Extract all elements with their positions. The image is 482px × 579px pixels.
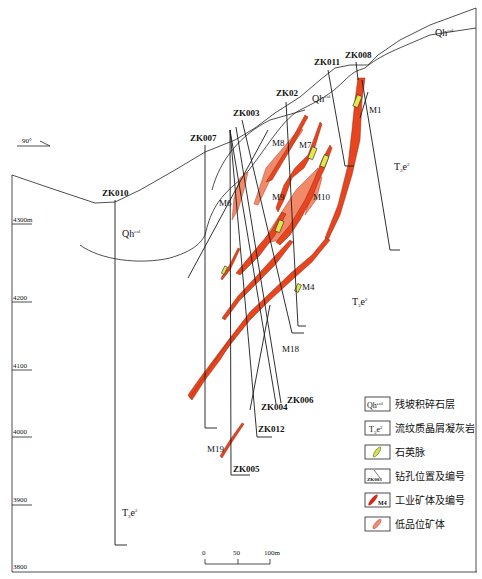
legend-item-t3e2: T3e2 流纹质晶屑凝灰岩 xyxy=(365,421,475,435)
legend-label-quartz: 石英脉 xyxy=(395,446,425,458)
t3e2-label-middle: T3e2 xyxy=(352,296,368,308)
elevation-axis: 4300m 4200 4100 4000 3900 3800 xyxy=(12,216,33,571)
legend-label-low-grade-ore: 低品位矿体 xyxy=(395,518,445,530)
svg-text:ZK003: ZK003 xyxy=(367,477,382,482)
legend-item-drill-hole: ZK003 钻孔位置及编号 xyxy=(365,469,465,483)
svg-text:M4: M4 xyxy=(378,500,387,506)
label-m4: M4 xyxy=(302,282,315,292)
legend-label-t3e2: 流纹质晶屑凝灰岩 xyxy=(395,422,475,434)
t3e2-label-upper: T3e2 xyxy=(394,161,410,173)
scale-tick-0: 0 xyxy=(202,549,206,557)
cross-section-diagram: 90° 4300m 4200 4100 4000 3900 3800 xyxy=(0,0,482,579)
qh-label-right: Qheol xyxy=(435,27,454,38)
legend-item-quartz-vein: 石英脉 xyxy=(365,445,425,459)
legend-item-industrial-ore: M4 工业矿体及编号 xyxy=(365,493,465,507)
orientation-label: 90° xyxy=(22,137,32,145)
label-zk006: ZK006 xyxy=(287,395,314,405)
label-zk004: ZK004 xyxy=(261,402,288,412)
elev-tick-4100: 4100 xyxy=(13,362,28,370)
label-m8: M8 xyxy=(272,138,285,148)
qh-label-center: Qheol xyxy=(312,93,331,104)
qh-label-left: Qheol xyxy=(122,228,141,239)
elev-tick-4200: 4200 xyxy=(13,294,28,302)
strata-labels: Qheol Qheol Qheol T3e2 T3e2 T3e2 xyxy=(122,27,454,519)
label-m7: M7 xyxy=(299,140,312,150)
label-zk007: ZK007 xyxy=(190,133,217,143)
legend: Qheol 残坡积碎石层 T3e2 流纹质晶屑凝灰岩 石英脉 ZK003 钻孔位… xyxy=(365,397,475,531)
label-m9: M9 xyxy=(272,192,285,202)
label-m1: M1 xyxy=(369,105,382,115)
scale-bar: 0 50 100m xyxy=(202,549,281,564)
legend-label-drill-hole: 钻孔位置及编号 xyxy=(395,470,465,482)
elev-tick-3900: 3900 xyxy=(13,496,28,504)
label-zk010: ZK010 xyxy=(102,188,129,198)
label-zk011: ZK011 xyxy=(314,57,341,67)
label-zk005: ZK005 xyxy=(233,464,260,474)
scale-tick-50: 50 xyxy=(233,549,241,557)
t3e2-label-lower: T3e2 xyxy=(122,507,138,519)
elev-tick-4300: 4300m xyxy=(13,216,33,224)
label-zk012: ZK012 xyxy=(258,424,285,434)
label-zk003: ZK003 xyxy=(233,108,260,118)
legend-item-low-grade-ore: 低品位矿体 xyxy=(365,517,445,531)
label-m10: M10 xyxy=(313,192,331,202)
legend-label-industrial-ore: 工业矿体及编号 xyxy=(395,494,465,506)
elev-tick-3800: 3800 xyxy=(13,563,28,571)
label-m6: M6 xyxy=(219,198,232,208)
label-zk008: ZK008 xyxy=(345,50,372,60)
legend-label-qh: 残坡积碎石层 xyxy=(395,398,455,410)
label-m19: M19 xyxy=(207,444,225,454)
legend-item-qh: Qheol 残坡积碎石层 xyxy=(365,397,455,411)
label-zk02: ZK02 xyxy=(276,88,299,98)
drill-hole-labels: ZK010 ZK007 ZK003 ZK02 ZK011 ZK008 ZK006… xyxy=(102,50,372,474)
scale-tick-100: 100m xyxy=(264,549,281,557)
elev-tick-4000: 4000 xyxy=(13,428,28,436)
label-m18: M18 xyxy=(282,344,300,354)
orientation-mark: 90° xyxy=(17,137,50,146)
